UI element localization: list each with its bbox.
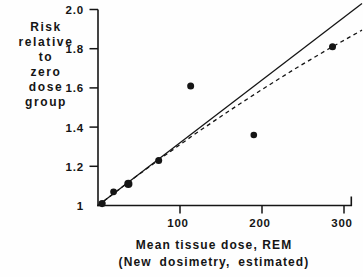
data-point	[329, 43, 336, 50]
y-axis-title-line: zero	[30, 65, 61, 79]
data-point	[110, 188, 117, 195]
risk-vs-dose-scatter-chart: 2.01.81.61.41.21100200300Riskrelativetoz…	[0, 0, 363, 277]
data-point	[155, 157, 162, 164]
y-tick-label: 1.6	[66, 82, 84, 94]
dashed-fit-line	[98, 30, 362, 205]
x-axis-title-line: Mean tissue dose, REM	[136, 238, 292, 252]
y-tick-label: 2.0	[66, 4, 84, 16]
data-point	[251, 132, 258, 139]
y-axis-title-line: Risk	[30, 20, 62, 34]
y-tick-label: 1.2	[66, 161, 84, 173]
y-tick-label: 1.4	[66, 122, 84, 134]
y-axis-title-line: to	[39, 50, 54, 64]
chart-canvas: 2.01.81.61.41.21100200300Riskrelativetoz…	[0, 0, 363, 277]
y-axis-title-line: relative	[19, 35, 74, 49]
data-point	[187, 82, 194, 89]
x-tick-label: 100	[167, 217, 189, 229]
x-tick-label: 300	[331, 217, 353, 229]
y-tick-label: 1	[77, 200, 84, 212]
x-tick-label: 200	[249, 217, 271, 229]
solid-linear-fit-line	[98, 4, 362, 206]
data-point	[99, 200, 106, 207]
y-axis-title-line: group	[25, 95, 67, 109]
y-axis-title-line: dose	[29, 80, 63, 94]
data-point	[124, 180, 132, 188]
x-axis-title-line: (New dosimetry, estimated)	[119, 255, 310, 269]
